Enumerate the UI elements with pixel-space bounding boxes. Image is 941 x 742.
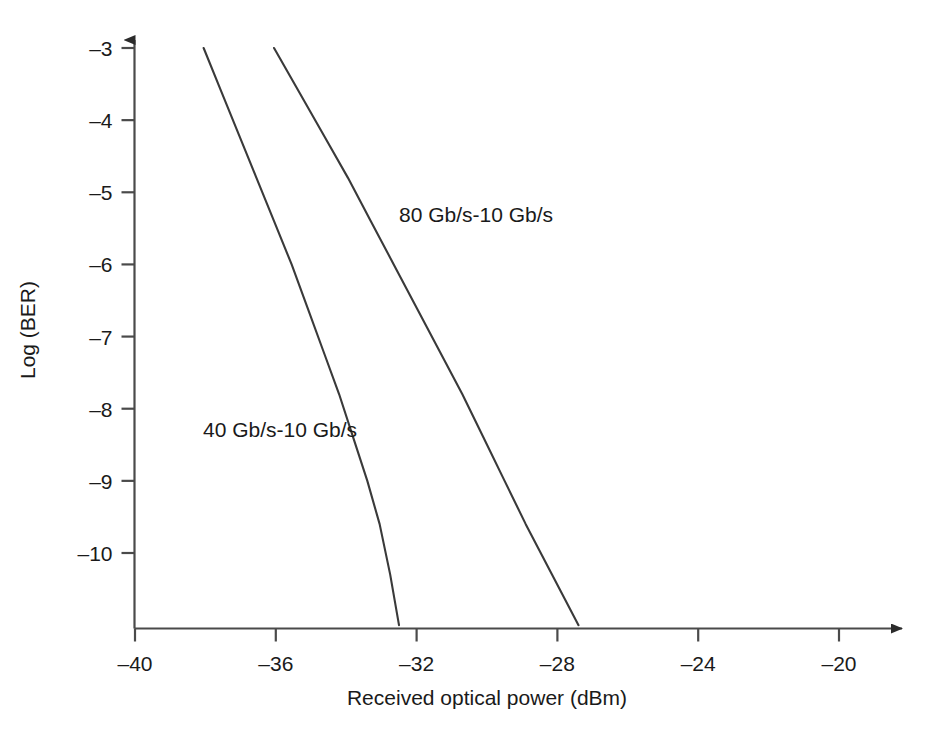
y-tick-label: –5 [0,182,113,203]
x-axis-title: Received optical power (dBm) [347,686,627,710]
series-label-40gbs: 40 Gb/s-10 Gb/s [203,419,357,440]
y-tick-label: –4 [0,110,113,131]
y-axis-title: Log (BER) [16,281,40,379]
x-axis-ticks [135,629,839,642]
y-tick-label: –6 [0,254,113,275]
curve-40gbs [204,48,399,625]
axes [135,40,903,629]
x-tick-label: –28 [540,653,575,674]
curve-80gbs [274,48,578,625]
x-tick-label: –24 [681,653,716,674]
data-curves [204,48,579,625]
y-tick-label: –3 [0,38,113,59]
y-tick-label: –9 [0,470,113,491]
x-tick-label: –40 [117,653,152,674]
x-tick-label: –32 [399,653,434,674]
x-tick-label: –20 [821,653,856,674]
series-label-80gbs: 80 Gb/s-10 Gb/s [399,204,553,225]
y-tick-label: –10 [0,543,113,564]
y-tick-label: –8 [0,398,113,419]
chart-figure: –40–36–32–28–24–20 –3–4–5–6–7–8–9–10 Rec… [0,0,941,742]
x-tick-label: –36 [258,653,293,674]
plot-area [0,0,941,742]
y-axis-ticks [122,48,135,553]
